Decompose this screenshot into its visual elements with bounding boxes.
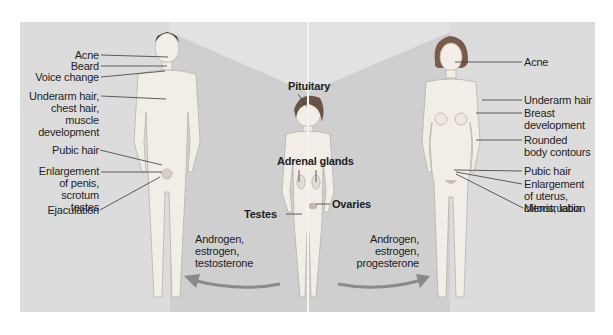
female-label-breast-development: Breast development [524,107,585,131]
male-hormones-label: Androgen, estrogen, testosterone [195,233,253,269]
child-label-testes: Testes [244,208,277,220]
center-divider [307,22,309,312]
female-label-menstruation: Menstruation [524,202,585,214]
child-label-pituitary: Pituitary [288,80,330,92]
male-label-voice-change: Voice change [35,71,99,83]
female-hormones-label: Androgen, estrogen, progesterone [357,233,419,269]
female-label-underarm-hair: Underarm hair [524,94,592,106]
puberty-diagram-panel: Acne Beard Voice change Underarm hair, c… [20,22,595,312]
male-label-ejaculation: Ejaculation [47,204,99,216]
female-label-acne: Acne [524,56,548,68]
child-label-ovaries: Ovaries [332,198,371,210]
male-label-underarm-chest-muscle: Underarm hair, chest hair, muscle develo… [29,90,99,138]
male-label-pubic-hair: Pubic hair [52,144,99,156]
female-label-rounded-contours: Rounded body contours [524,134,591,158]
female-label-pubic-hair: Pubic hair [524,165,571,177]
child-label-adrenal-glands: Adrenal glands [277,155,354,167]
